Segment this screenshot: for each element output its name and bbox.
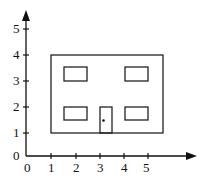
window-bottom-left [64, 107, 87, 120]
y-tick-label: 0 [13, 148, 20, 163]
x-axis-arrow-icon [186, 152, 197, 160]
window-bottom-right [125, 107, 148, 120]
window-top-left [64, 67, 87, 81]
x-tick-label: 0 [24, 160, 31, 175]
x-tick-label: 4 [121, 160, 128, 175]
y-tick-label: 2 [13, 99, 20, 114]
x-tick-label: 2 [73, 160, 80, 175]
house-coordinate-diagram: 0 1 2 3 4 5 0 1 2 3 4 5 [0, 0, 206, 181]
window-top-right [125, 67, 148, 81]
x-tick-label: 1 [48, 160, 55, 175]
y-axis-arrow-icon [22, 10, 30, 21]
y-tick-label: 3 [13, 73, 20, 88]
y-tick-label: 4 [13, 47, 20, 62]
house [51, 55, 163, 133]
door-knob [102, 119, 105, 122]
x-tick-label: 5 [143, 160, 150, 175]
door [100, 107, 112, 133]
x-tick-label: 3 [97, 160, 104, 175]
y-tick-label: 1 [13, 125, 20, 140]
y-tick-label: 5 [13, 21, 20, 36]
